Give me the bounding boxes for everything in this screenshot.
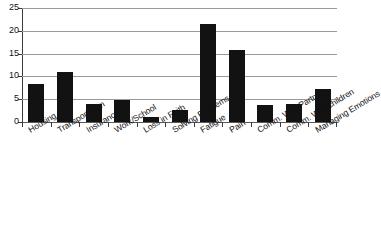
- bar: [229, 50, 245, 122]
- x-axis-labels: HousingTransportationInsuranceWork/Schoo…: [22, 127, 337, 227]
- y-tick-label-5: 5: [0, 94, 19, 103]
- y-tick-label-25: 25: [0, 3, 19, 12]
- chart-title-cropped: [0, 0, 337, 7]
- y-tick-label-20: 20: [0, 26, 19, 35]
- bar: [57, 72, 73, 122]
- y-tick-label-0: 0: [0, 117, 19, 126]
- y-tick-label-10: 10: [0, 71, 19, 80]
- y-tick-label-15: 15: [0, 49, 19, 58]
